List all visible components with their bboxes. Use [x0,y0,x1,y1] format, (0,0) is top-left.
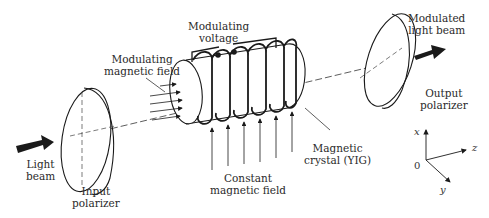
label-line: crystal (YIG) [304,154,371,166]
output-polarizer-label: Output polarizer [420,87,468,111]
crystal-leader-line [305,108,330,130]
label-line: Modulated [408,12,465,24]
magneto-optic-modulator-diagram: Modulating voltage Modulating magnetic f… [0,0,489,218]
label-line: voltage [188,32,249,44]
modulating-voltage-label: Modulating voltage [188,20,249,44]
input-polarizer-label: Input polarizer [72,185,120,209]
axis-origin-label: 0 [414,160,420,171]
voltage-terminal-left [215,52,221,58]
modulated-beam-arrow-icon [414,45,446,60]
axis-y-label: y [440,184,446,195]
label-line: Output [420,87,468,99]
coordinate-axes [426,130,466,182]
label-line: polarizer [72,197,120,209]
axis-z-label: z [472,142,477,153]
light-beam-arrow-icon [16,135,54,153]
label-line: polarizer [420,99,468,111]
label-line: Modulating [188,20,249,32]
label-line: Input [72,185,120,197]
modulated-light-beam-label: Modulated light beam [408,12,465,36]
label-line: Constant [210,172,286,184]
input-polarizer-disc [55,85,117,195]
voltage-terminal-right [231,49,237,55]
label-line: magnetic field [104,65,180,77]
label-line: light beam [408,24,465,36]
label-line: beam [26,170,55,182]
label-line: Magnetic [304,142,371,154]
label-line: magnetic field [210,184,286,196]
label-line: Modulating [104,53,180,65]
axis-x-label: x [414,126,420,137]
constant-magnetic-field-label: Constant magnetic field [210,172,286,196]
modulating-magnetic-field-label: Modulating magnetic field [104,53,180,77]
light-beam-label: Light beam [26,158,55,182]
magnetic-crystal-label: Magnetic crystal (YIG) [304,142,371,166]
label-line: Light [26,158,55,170]
